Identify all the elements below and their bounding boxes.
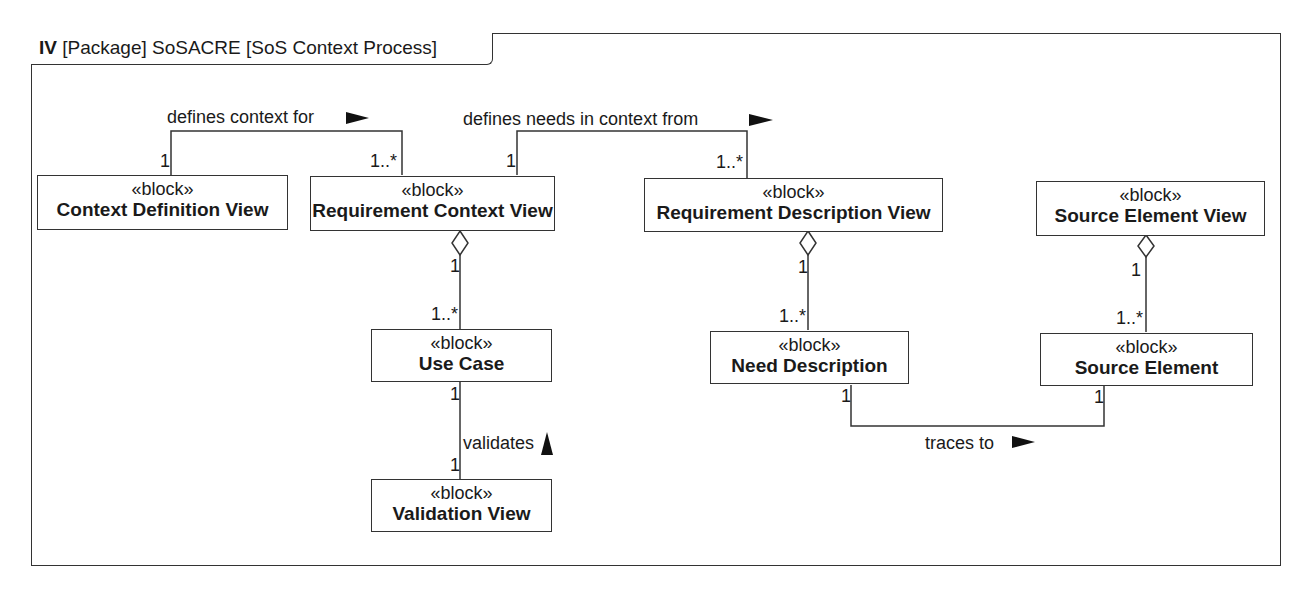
mult-rdv-1n: 1..* xyxy=(716,152,743,172)
aggregation-diamond-icon xyxy=(1138,235,1154,257)
block-stereotype: «block» xyxy=(372,333,551,353)
block-stereotype: «block» xyxy=(645,182,942,202)
block-context-definition-view[interactable]: «block» Context Definition View xyxy=(37,175,288,230)
block-name: Source Element View xyxy=(1037,205,1264,227)
label-defines-needs: defines needs in context from xyxy=(463,109,698,129)
block-stereotype: «block» xyxy=(711,335,908,355)
mult-rdv-agg-1: 1 xyxy=(798,257,808,277)
block-requirement-description-view[interactable]: «block» Requirement Description View xyxy=(644,178,943,232)
block-validation-view[interactable]: «block» Validation View xyxy=(371,479,552,532)
direction-arrow-right-icon xyxy=(346,112,369,124)
block-need-description[interactable]: «block» Need Description xyxy=(710,331,909,384)
direction-arrow-right-icon xyxy=(1012,436,1035,448)
mult-rcv-agg-1: 1 xyxy=(450,256,460,276)
label-defines-context-for: defines context for xyxy=(167,107,314,127)
block-name: Need Description xyxy=(711,355,908,377)
mult-rcv-1: 1 xyxy=(506,151,516,171)
association-defines-needs xyxy=(517,131,747,178)
block-requirement-context-view[interactable]: «block» Requirement Context View xyxy=(310,176,555,231)
direction-arrow-right-icon xyxy=(749,114,773,126)
block-name: Context Definition View xyxy=(38,199,287,221)
block-name: Validation View xyxy=(372,503,551,525)
block-stereotype: «block» xyxy=(1041,337,1252,357)
mult-source-traces-1: 1 xyxy=(1094,387,1104,407)
mult-rcv-1n: 1..* xyxy=(370,151,397,171)
label-validates: validates xyxy=(463,433,534,453)
association-traces-to xyxy=(851,385,1104,426)
association-defines-context-for xyxy=(171,131,402,175)
block-source-element-view[interactable]: «block» Source Element View xyxy=(1036,181,1265,236)
block-name: Requirement Description View xyxy=(645,202,942,224)
block-stereotype: «block» xyxy=(1037,185,1264,205)
block-source-element[interactable]: «block» Source Element xyxy=(1040,333,1253,386)
label-traces-to: traces to xyxy=(925,433,994,453)
direction-arrow-up-icon xyxy=(541,432,553,455)
mult-need-1n: 1..* xyxy=(779,306,806,326)
diagram-canvas: IV [Package] SoSACRE [SoS Context Proces… xyxy=(0,0,1304,593)
block-stereotype: «block» xyxy=(38,179,287,199)
mult-usecase-1n: 1..* xyxy=(431,304,458,324)
mult-sev-agg-1: 1 xyxy=(1131,260,1141,280)
mult-validation-1: 1 xyxy=(450,455,460,475)
block-name: Source Element xyxy=(1041,357,1252,379)
block-use-case[interactable]: «block» Use Case xyxy=(371,329,552,382)
block-name: Use Case xyxy=(372,353,551,375)
block-stereotype: «block» xyxy=(372,483,551,503)
block-stereotype: «block» xyxy=(311,180,554,200)
block-name: Requirement Context View xyxy=(311,200,554,222)
mult-need-traces-1: 1 xyxy=(841,386,851,406)
aggregation-diamond-icon xyxy=(800,231,816,255)
aggregation-diamond-icon xyxy=(452,231,468,255)
connector-lines xyxy=(0,0,1304,593)
mult-usecase-validates-1: 1 xyxy=(450,384,460,404)
mult-cdv-1: 1 xyxy=(160,151,170,171)
mult-source-1n: 1..* xyxy=(1116,308,1143,328)
